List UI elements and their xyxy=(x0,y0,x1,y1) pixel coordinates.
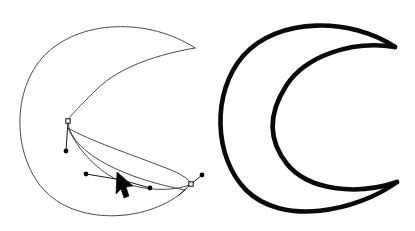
right-crescent-inner-arc[interactable] xyxy=(273,45,397,189)
illustration-canvas xyxy=(0,0,415,231)
left-crescent-outer-arc[interactable] xyxy=(20,27,195,216)
mouse-cursor-icon xyxy=(116,172,133,198)
bezier-editor-overlay[interactable] xyxy=(64,119,205,196)
anchor-point-lower-right[interactable] xyxy=(189,182,193,186)
right-crescent-outer-arc[interactable] xyxy=(220,26,397,212)
vector-stage xyxy=(0,0,415,231)
left-crescent-inner-arc[interactable] xyxy=(68,48,195,190)
right-crescent-group[interactable] xyxy=(220,26,397,212)
handle-dot-right-lower[interactable] xyxy=(148,186,153,191)
handle-dot-left[interactable] xyxy=(84,172,89,177)
anchor-point-upper[interactable] xyxy=(66,119,70,123)
left-crescent-group[interactable] xyxy=(20,27,195,216)
handle-dot-far-right[interactable] xyxy=(200,173,205,178)
handle-line-upper-down[interactable] xyxy=(66,121,68,151)
handle-dot-upper[interactable] xyxy=(64,149,69,154)
